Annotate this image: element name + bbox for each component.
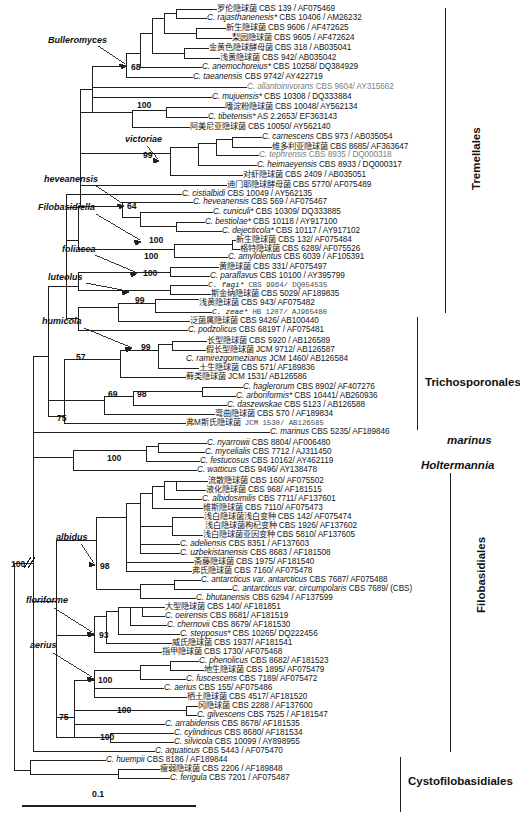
strain-accession: CBS 10117 / AY917102	[274, 226, 361, 235]
strain-accession: CBS 8935 / DQ000318	[307, 150, 392, 159]
taxon-name-cn: 弯曲隐球菌	[215, 409, 255, 418]
taxon-label: C. taeanensis CBS 9742/ AY422719	[193, 72, 323, 81]
taxon-name-latin: C. adeliensis	[180, 539, 226, 548]
taxon-label: C. podzolicus CBS 6819T / AF075481	[188, 325, 324, 334]
taxon-name-cn: 泛菌属隐球菌	[190, 316, 238, 325]
taxon-label: 阿美尼亚隐球菌 CBS 10050/ AY562140	[190, 122, 331, 131]
taxon-name-cn: 斯金纳隐球菌	[211, 289, 259, 298]
taxon-label: 维斯隐球菌 CBS 7110/ AF075473	[203, 503, 323, 512]
taxon-label: 梨园隐球菌 CBS 9605 / AF472624	[232, 33, 355, 42]
clade-name-label: floriforme	[26, 595, 68, 605]
strain-accession: JCM 1530/ AB126585	[240, 419, 323, 427]
strain-accession: CBS 9604/ AY315662	[313, 82, 393, 91]
taxon-name-cn: 浅白隐球菌亚因变种	[203, 530, 275, 539]
taxon-name-latin: C. tibetensis*	[208, 112, 256, 121]
taxon-label: 浅白隐球菌枸杞变种 CBS 1926/ AF137602	[205, 521, 357, 530]
taxon-name-latin: C. paraflavus	[210, 271, 258, 280]
strain-accession: CBS 4517/ AF181520	[227, 692, 308, 701]
taxon-label: 泛菌属隐球菌 CBS 9426/ AB100440	[190, 316, 319, 325]
scale-bar-label: 0.1	[92, 789, 104, 799]
clade-name-label: victoriae	[125, 134, 162, 144]
taxon-label: C. aerius CBS 155/ AF075486	[164, 683, 272, 692]
taxon-name-cn: 冈隐球菌	[198, 701, 230, 710]
strain-accession: CBS 7687/ AF075488	[307, 575, 388, 584]
taxon-name-cn: 对虾隐球菌	[243, 170, 283, 179]
taxon-name-latin: C. anemochoreius*	[202, 62, 271, 71]
taxon-name-cn: 新生隐球菌	[226, 23, 266, 32]
bootstrap-value: 100	[117, 705, 131, 715]
taxon-label: C. amylolentus CBS 6039 / AF105391	[228, 252, 364, 261]
taxon-name-cn: 假长型隐球菌	[206, 345, 254, 354]
taxon-name-cn: 土生隐球菌	[199, 363, 239, 372]
taxon-label: 长型隐球菌 CBS 5920 / AB126589	[207, 336, 330, 345]
strain-accession: CBS 8682/ AF181523	[248, 656, 329, 665]
taxon-name-latin: C. ramirezgomezianus	[186, 354, 267, 363]
taxon-name-cn: 栖土隐球菌	[187, 692, 227, 701]
taxon-name-latin: C. rajasthanenesis*	[207, 13, 277, 22]
taxon-name-latin: C. cylindricus	[174, 728, 222, 737]
taxon-name-cn: 黄隐球菌	[219, 262, 251, 271]
taxon-name-cn: 藓类隐球菌	[186, 372, 226, 381]
strain-accession: CBS 8678/ AF181535	[219, 719, 300, 728]
taxon-name-latin: C. nyarrowii	[207, 438, 250, 447]
bootstrap-value: 100	[137, 100, 151, 110]
taxon-label: 假长型隐球菌 JCM 9712/ AB126587	[206, 345, 335, 354]
taxon-name-latin: C. uzbekistanensis	[180, 548, 248, 557]
bootstrap-value: 98	[137, 389, 147, 399]
strain-accession: JCM 1460/ AB126584	[267, 354, 348, 363]
taxon-label: 对虾隐球菌 CBS 2409 / AB035051	[243, 170, 366, 179]
taxon-name-latin: C. stepposus*	[180, 629, 230, 638]
strain-accession: CBS 10050/ AY562140	[246, 122, 331, 131]
strain-accession: CBS 10099 / AY898955	[213, 737, 300, 746]
strain-accession: CBS 6819T / AF075481	[237, 325, 325, 334]
taxon-label: C. stepposus* CBS 10265/ DQ222456	[180, 629, 318, 638]
taxon-name-latin: C. antarcticus var. circumpolaris	[232, 584, 347, 593]
bootstrap-value: 100	[149, 235, 163, 245]
strain-accession: JCM 9712/ AB126587	[254, 345, 335, 354]
taxon-label: C. arboriformis* CBS 10441/ AB260936	[236, 391, 378, 400]
taxon-name-cn: 浅黄隐球菌	[220, 53, 260, 62]
strain-accession: CBS 318 / AB035041	[273, 43, 352, 52]
strain-accession: CBS 1926/ AF137602	[277, 521, 358, 530]
taxon-name-latin: C. bestiolae*	[205, 217, 251, 226]
taxon-label: 斯金纳隐球菌 CBS 5029/ AF189835	[211, 289, 339, 298]
taxon-label: C. paraflavus CBS 10100 / AY395799	[210, 271, 345, 280]
strain-accession: CBS 1730/ AF075468	[202, 647, 283, 656]
clade-name-label: albidus	[56, 532, 88, 542]
strain-accession: CBS 9606 / AF472625	[266, 23, 349, 32]
bootstrap-value: 99	[135, 295, 145, 305]
taxon-label: 藓类隐球菌 JCM 1531/ AB126586	[186, 372, 307, 381]
taxon-label: 威氏隐球菌 CBS 1937/ AF181541	[172, 638, 292, 647]
taxon-name-latin: C. haglerorum	[243, 382, 294, 391]
taxon-label: 浅黄隐球菌 CBS 943/ AF075482	[199, 298, 315, 307]
strain-accession: CBS 2288 / AF137600	[230, 701, 313, 710]
taxon-label: C. cuniculi* CBS 10309/ DQ333885	[213, 207, 341, 216]
strain-accession: CBS 9426/ AB100440	[238, 316, 319, 325]
order-label: Trichosporonales	[425, 376, 520, 388]
taxon-name-latin: C. fagi*	[208, 281, 244, 289]
taxon-label: C. carnescens CBS 973 / AB035054	[262, 132, 392, 141]
taxon-label: C. watticus CBS 9496/ AY138478	[197, 465, 317, 474]
bootstrap-value: 75	[57, 413, 67, 423]
taxon-label: 栖土隐球菌 CBS 4517/ AF181520	[187, 692, 307, 701]
taxon-label: C. fuscescens CBS 7189/ AF075472	[186, 674, 317, 683]
strain-accession: CBS 10118 / AY917100	[251, 217, 338, 226]
strain-accession: CBS 8804/ AF006480	[250, 438, 331, 447]
strain-accession: CBS 8680/ AF181534	[222, 728, 303, 737]
taxon-name-latin: C. cuniculi*	[213, 207, 253, 216]
taxon-label: 流散隐球菌 CBS 160/ AF075502	[208, 476, 324, 485]
bootstrap-value: 98	[100, 561, 110, 571]
taxon-label: C. haglerorum CBS 8902/ AF407276	[243, 382, 375, 391]
taxon-name-cn: 浅白隐球菌浅白变种	[204, 512, 276, 521]
strain-accession: CBS 5920 / AB126589	[247, 336, 330, 345]
strain-accession: CBS 5123 / AB126588	[282, 400, 365, 409]
bootstrap-value: 99	[143, 150, 153, 160]
taxon-name-latin: C. ferigula	[170, 773, 207, 782]
taxon-label: 液化隐球菌 CBS 968/ AF181515	[206, 485, 322, 494]
taxon-label: 新生隐球菌 CBS 132/ AF075484	[236, 235, 352, 244]
taxon-name-latin: C. heveanensis	[193, 197, 249, 206]
taxon-label: 浅黄隐球菌 CBS 942/ AB035042	[220, 53, 336, 62]
taxon-name-cn: 长型隐球菌	[207, 336, 247, 345]
strain-accession: CBS 6294 / AF137599	[250, 593, 333, 602]
taxon-label: C. uzbekistanensis CBS 8683 / AF181508	[180, 548, 331, 557]
